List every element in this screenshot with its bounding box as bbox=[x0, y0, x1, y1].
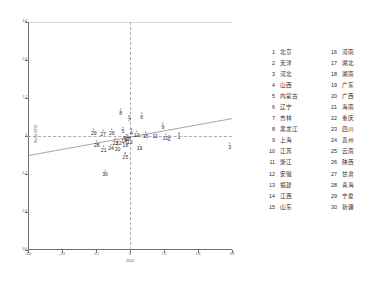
legend-item-number: 7 bbox=[262, 115, 275, 121]
legend-item-13: 13福建 bbox=[262, 181, 298, 192]
data-point-label: 8 bbox=[119, 111, 122, 116]
legend-item-number: 26 bbox=[324, 159, 337, 165]
data-point-label: 27 bbox=[100, 132, 106, 137]
legend-item-21: 21海南 bbox=[324, 103, 354, 114]
data-point-label: 5 bbox=[121, 129, 124, 134]
legend-item-6: 6辽宁 bbox=[262, 103, 298, 114]
legend-item-label: 云南 bbox=[342, 147, 354, 155]
legend-item-17: 17湖北 bbox=[324, 59, 354, 70]
legend-item-24: 24贵州 bbox=[324, 136, 354, 147]
legend-item-number: 21 bbox=[324, 104, 337, 110]
legend-item-number: 15 bbox=[262, 204, 275, 210]
legend-item-number: 19 bbox=[324, 82, 337, 88]
legend-item-label: 黑龙江 bbox=[280, 125, 298, 133]
data-point-label: 25 bbox=[123, 155, 129, 160]
legend-item-label: 宁夏 bbox=[342, 192, 354, 200]
data-point-label: 10 bbox=[163, 136, 169, 141]
legend-item-number: 18 bbox=[324, 71, 337, 77]
legend-item-number: 10 bbox=[262, 148, 275, 154]
x-tick-label: 0 bbox=[117, 253, 143, 256]
legend-item-label: 贵州 bbox=[342, 136, 354, 144]
data-point-label: 3 bbox=[228, 145, 231, 150]
data-point-label: 29 bbox=[91, 131, 97, 136]
legend-item-label: 四川 bbox=[342, 125, 354, 133]
legend-item-2: 2天津 bbox=[262, 59, 298, 70]
legend-item-25: 25云南 bbox=[324, 147, 354, 158]
legend-item-number: 28 bbox=[324, 182, 337, 188]
legend-item-number: 11 bbox=[262, 159, 275, 165]
legend-item-label: 内蒙古 bbox=[280, 92, 298, 100]
legend-item-15: 15山东 bbox=[262, 203, 298, 214]
legend-item-16: 16河南 bbox=[324, 48, 354, 59]
legend-item-26: 26陕西 bbox=[324, 158, 354, 169]
legend-item-29: 29宁夏 bbox=[324, 192, 354, 203]
y-tick-label: -3.6 bbox=[5, 248, 27, 251]
y-tick-label: 0 bbox=[5, 134, 27, 137]
legend-item-label: 江西 bbox=[280, 192, 292, 200]
legend-item-label: 广西 bbox=[342, 92, 354, 100]
x-tick-label: -2.4 bbox=[49, 253, 75, 256]
legend-item-4: 4山西 bbox=[262, 81, 298, 92]
legend-item-label: 新疆 bbox=[342, 203, 354, 211]
x-tick-label: 1.2 bbox=[151, 253, 177, 256]
legend-item-number: 16 bbox=[324, 49, 337, 55]
legend-item-label: 北京 bbox=[280, 48, 292, 56]
y-axis-title: Resid 2010 bbox=[34, 104, 38, 164]
data-point-label: 20 bbox=[115, 147, 121, 152]
legend-item-number: 27 bbox=[324, 171, 337, 177]
data-point-label: 9 bbox=[161, 125, 164, 130]
legend-item-label: 河北 bbox=[280, 70, 292, 78]
legend-item-18: 18湖南 bbox=[324, 70, 354, 81]
chart-screenshot: -3.6-2.4-1.201.22.43.6 -3.6-2.4-1.201.22… bbox=[0, 0, 381, 282]
y-tick-label: -2.4 bbox=[5, 210, 27, 213]
legend-item-label: 天津 bbox=[280, 59, 292, 67]
y-tick-label: 2.4 bbox=[5, 58, 27, 61]
legend-item-label: 辽宁 bbox=[280, 103, 292, 111]
data-point-label: 4 bbox=[130, 131, 133, 136]
legend-item-12: 12安徽 bbox=[262, 170, 298, 181]
legend-item-number: 4 bbox=[262, 82, 275, 88]
legend-column-right: 16河南17湖北18湖南19广东20广西21海南22重庆23四川24贵州25云南… bbox=[324, 48, 354, 214]
legend-item-1: 1北京 bbox=[262, 48, 298, 59]
legend-item-23: 23四川 bbox=[324, 125, 354, 136]
legend-item-number: 1 bbox=[262, 49, 275, 55]
plot-area: -3.6-2.4-1.201.22.43.6 -3.6-2.4-1.201.22… bbox=[28, 22, 232, 250]
data-point-label: 7 bbox=[128, 118, 131, 123]
legend-item-3: 3河北 bbox=[262, 70, 298, 81]
legend-item-label: 湖北 bbox=[342, 59, 354, 67]
legend-item-5: 5内蒙古 bbox=[262, 92, 298, 103]
legend-item-label: 江苏 bbox=[280, 147, 292, 155]
legend-item-label: 甘肃 bbox=[342, 170, 354, 178]
legend-item-number: 3 bbox=[262, 71, 275, 77]
legend-item-label: 浙江 bbox=[280, 158, 292, 166]
data-point-label: 21 bbox=[101, 148, 107, 153]
legend-item-label: 山东 bbox=[280, 203, 292, 211]
data-point-label: 15 bbox=[143, 134, 149, 139]
legend-item-label: 海南 bbox=[342, 103, 354, 111]
legend-item-22: 22重庆 bbox=[324, 114, 354, 125]
legend-item-number: 13 bbox=[262, 182, 275, 188]
legend-item-label: 山西 bbox=[280, 81, 292, 89]
y-tick-label: 1.2 bbox=[5, 96, 27, 99]
legend-item-number: 8 bbox=[262, 126, 275, 132]
legend-item-number: 23 bbox=[324, 126, 337, 132]
legend-item-number: 25 bbox=[324, 148, 337, 154]
data-point-label: 24 bbox=[108, 146, 114, 151]
y-tick-label: -1.2 bbox=[5, 172, 27, 175]
data-point-label: 30 bbox=[102, 172, 108, 177]
legend-item-7: 7吉林 bbox=[262, 114, 298, 125]
legend-item-label: 广东 bbox=[342, 81, 354, 89]
legend-item-label: 陕西 bbox=[342, 158, 354, 166]
data-point-label: 28 bbox=[94, 143, 100, 148]
legend-item-label: 吉林 bbox=[280, 114, 292, 122]
legend-item-label: 河南 bbox=[342, 48, 354, 56]
legend-item-label: 福建 bbox=[280, 181, 292, 189]
data-point-label: 1 bbox=[178, 135, 181, 140]
legend-item-label: 上海 bbox=[280, 136, 292, 144]
data-point-label: 6 bbox=[140, 115, 143, 120]
legend-item-label: 青海 bbox=[342, 181, 354, 189]
x-tick-label: -1.2 bbox=[83, 253, 109, 256]
data-point-label: 19 bbox=[137, 146, 143, 151]
legend-item-number: 24 bbox=[324, 137, 337, 143]
legend-item-28: 28青海 bbox=[324, 181, 354, 192]
